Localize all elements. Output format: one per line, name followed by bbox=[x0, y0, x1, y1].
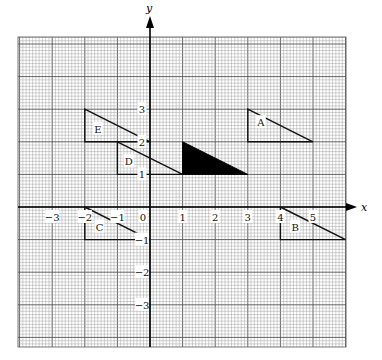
triangle-label: C bbox=[96, 222, 104, 233]
x-tick-label: −3 bbox=[45, 210, 60, 223]
triangle-label: B bbox=[291, 222, 298, 233]
y-axis-arrow-icon bbox=[146, 16, 154, 28]
y-tick-label: 1 bbox=[138, 167, 147, 180]
svg-text:−3: −3 bbox=[135, 300, 150, 311]
svg-text:2: 2 bbox=[139, 137, 145, 148]
coordinate-plane: x y ABCDE −3−2−1012345321−1−2−3 bbox=[0, 0, 382, 360]
svg-text:−2: −2 bbox=[77, 212, 92, 223]
y-axis-label: y bbox=[145, 2, 153, 15]
y-tick-label: −1 bbox=[135, 233, 150, 246]
x-tick-label: −1 bbox=[110, 210, 125, 223]
x-tick-label: 4 bbox=[276, 210, 285, 223]
x-tick-label: 5 bbox=[309, 210, 318, 223]
svg-text:3: 3 bbox=[139, 104, 145, 115]
x-tick-label: 3 bbox=[243, 210, 252, 223]
svg-text:5: 5 bbox=[310, 212, 316, 223]
y-tick-label: 2 bbox=[138, 135, 147, 148]
svg-text:3: 3 bbox=[245, 212, 251, 223]
svg-text:−1: −1 bbox=[110, 212, 125, 223]
x-tick-label: 2 bbox=[211, 210, 220, 223]
y-tick-label: 3 bbox=[138, 102, 147, 115]
svg-text:1: 1 bbox=[179, 212, 185, 223]
svg-text:4: 4 bbox=[277, 212, 283, 223]
x-axis-arrow-icon bbox=[346, 203, 357, 211]
triangle-label: A bbox=[256, 117, 265, 128]
x-tick-label: −2 bbox=[77, 210, 92, 223]
svg-text:0: 0 bbox=[140, 212, 146, 223]
svg-text:−1: −1 bbox=[135, 235, 150, 246]
y-tick-label: −3 bbox=[135, 298, 150, 311]
svg-text:−2: −2 bbox=[135, 267, 150, 278]
coordinate-plane-figure: x y ABCDE −3−2−1012345321−1−2−3 bbox=[0, 0, 382, 360]
x-tick-label: 1 bbox=[178, 210, 187, 223]
graph-paper-grid bbox=[18, 37, 346, 347]
y-tick-label: −2 bbox=[135, 265, 150, 278]
triangle-label: E bbox=[94, 124, 101, 135]
x-tick-label: 0 bbox=[139, 210, 148, 223]
x-axis-label: x bbox=[361, 201, 368, 214]
svg-text:1: 1 bbox=[139, 169, 145, 180]
svg-text:2: 2 bbox=[212, 212, 218, 223]
svg-text:−3: −3 bbox=[45, 212, 60, 223]
triangle-label: D bbox=[125, 156, 133, 167]
